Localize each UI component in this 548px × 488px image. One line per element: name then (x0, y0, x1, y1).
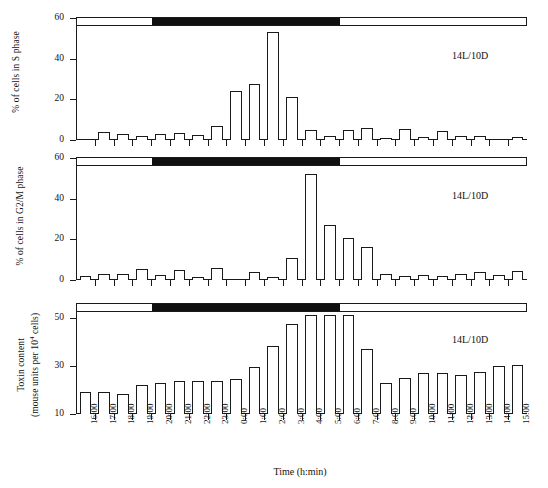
bar (98, 132, 110, 140)
y-tick (70, 318, 76, 319)
x-tick (245, 280, 246, 286)
bar (136, 136, 148, 140)
y-tick (70, 140, 76, 141)
x-tick (302, 280, 303, 286)
bar (437, 276, 449, 280)
bar (249, 272, 261, 280)
x-tick-label: 15:00 (521, 403, 531, 424)
bar (249, 367, 261, 414)
y-tick (70, 280, 76, 281)
bar (324, 315, 336, 414)
x-tick (264, 280, 265, 286)
x-tick-label: 11:00 (446, 404, 456, 424)
x-tick (358, 280, 359, 286)
bar (493, 275, 505, 280)
panel-c-bars (0, 294, 548, 488)
x-tick (226, 280, 227, 286)
x-tick-label: 2:00 (277, 408, 287, 424)
bar (305, 315, 317, 414)
y-tick (70, 59, 76, 60)
x-tick (189, 140, 190, 146)
x-tick-label: 22:00 (202, 403, 212, 424)
y-tick-label: 40 (38, 53, 64, 63)
x-tick-label: 13:00 (484, 403, 494, 424)
x-tick (283, 140, 284, 146)
x-tick (395, 280, 396, 286)
bar (455, 274, 467, 280)
x-tick (208, 280, 209, 286)
bar (324, 136, 336, 140)
x-tick (414, 140, 415, 146)
bar (174, 270, 186, 280)
y-tick-label: 60 (38, 12, 64, 22)
bar (399, 129, 411, 140)
bar (117, 134, 129, 140)
x-tick (471, 280, 472, 286)
x-tick (132, 140, 133, 146)
x-tick (170, 140, 171, 146)
bar (136, 269, 148, 280)
bar (399, 276, 411, 280)
bar (267, 277, 279, 280)
x-tick (377, 280, 378, 286)
bar (286, 324, 298, 414)
bar (361, 247, 373, 280)
x-tick (151, 140, 152, 146)
x-tick-label: 5:00 (333, 408, 343, 424)
bar (286, 258, 298, 280)
y-tick-label: 60 (38, 152, 64, 162)
panel-g2m-phase: % of cells in G2/M phase 14L/10D 0204060 (0, 148, 548, 296)
x-tick (339, 140, 340, 146)
x-tick-label: 23:00 (220, 403, 230, 424)
bar (361, 128, 373, 140)
bar (305, 130, 317, 140)
y-tick-label: 40 (38, 193, 64, 203)
panel-a-bars (0, 0, 548, 150)
x-tick (452, 140, 453, 146)
x-tick (508, 140, 509, 146)
bar (267, 346, 279, 414)
bar (343, 315, 355, 414)
bar (211, 268, 223, 280)
x-tick-label: 20:00 (164, 403, 174, 424)
x-tick-label: 8:00 (390, 408, 400, 424)
y-tick (70, 414, 76, 415)
x-tick (151, 280, 152, 286)
x-tick-label: 12:00 (465, 403, 475, 424)
x-tick (358, 140, 359, 146)
x-tick (114, 140, 115, 146)
bar (98, 274, 110, 280)
x-tick (377, 140, 378, 146)
bar (286, 97, 298, 140)
bar (192, 135, 204, 140)
y-tick-label: 30 (38, 360, 64, 370)
x-tick (452, 280, 453, 286)
x-tick-label: 16:00 (89, 403, 99, 424)
bar (343, 238, 355, 280)
bar (474, 272, 486, 280)
x-tick-label: 21:00 (183, 403, 193, 424)
y-tick-label: 50 (38, 312, 64, 322)
bar (211, 126, 223, 140)
x-tick-label: 1:00 (258, 408, 268, 424)
x-tick (170, 280, 171, 286)
bar (230, 91, 242, 140)
x-tick-label: 14:00 (502, 403, 512, 424)
x-tick (508, 280, 509, 286)
panel-toxin-content: Toxin content (mouse units per 104 cells… (0, 294, 548, 488)
bar (512, 137, 524, 140)
y-tick-label: 10 (38, 408, 64, 418)
y-tick (70, 199, 76, 200)
x-tick (414, 280, 415, 286)
y-tick-label: 20 (38, 93, 64, 103)
x-tick-label: 10:00 (427, 403, 437, 424)
x-tick (95, 280, 96, 286)
figure-root: % of cells in S phase 14L/10D 0204060 % … (0, 0, 548, 488)
x-tick (320, 280, 321, 286)
x-tick (489, 280, 490, 286)
bar (474, 136, 486, 140)
bar (343, 130, 355, 140)
bar (174, 133, 186, 140)
y-tick-label: 0 (38, 274, 64, 284)
bar (192, 277, 204, 280)
